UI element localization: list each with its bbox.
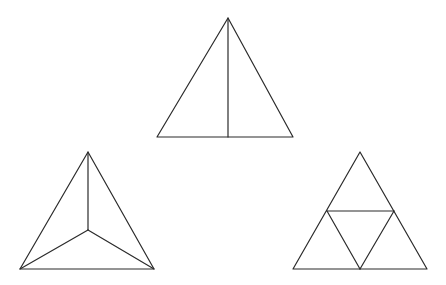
triangles-diagram [0,0,446,285]
triangle-outline [157,18,293,137]
triangle-outline [20,152,154,269]
division-line [327,211,360,269]
triangle-centroid-split [20,152,154,269]
diagram-canvas [0,0,446,285]
division-line [360,211,394,269]
triangle-bisected [157,18,293,137]
triangle-four-subdivided [293,152,427,269]
division-line [20,230,88,269]
division-line [88,230,154,269]
